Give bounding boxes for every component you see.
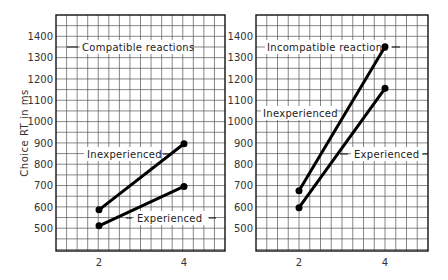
data-point-marker bbox=[181, 183, 188, 190]
y-tick-label: 1300 bbox=[228, 52, 253, 63]
y-tick-label: 1100 bbox=[228, 95, 253, 106]
y-tick-label: 500 bbox=[234, 223, 253, 234]
y-tick-label: 1400 bbox=[28, 31, 53, 42]
y-tick-label: 500 bbox=[34, 223, 53, 234]
y-tick-label: 1200 bbox=[28, 74, 53, 85]
y-tick-label: 600 bbox=[234, 202, 253, 213]
y-tick-label: 900 bbox=[34, 138, 53, 149]
y-tick-label: 800 bbox=[34, 159, 53, 170]
right-inexperienced-label: Inexperienced bbox=[263, 108, 338, 119]
y-tick-label: 1400 bbox=[228, 31, 253, 42]
left-y-tick-labels: 50060070080090010001100120013001400 bbox=[28, 31, 53, 234]
left-inexperienced-label: Inexperienced bbox=[87, 149, 162, 160]
left-x-tick-4: 4 bbox=[181, 257, 187, 268]
right-x-tick-4: 4 bbox=[382, 257, 388, 268]
right-panel-title: Incompatible reactions bbox=[267, 42, 388, 53]
left-panel-title: Compatible reactions bbox=[82, 42, 195, 53]
right-experienced-label: Experienced bbox=[354, 149, 419, 160]
right-x-tick-2: 2 bbox=[296, 257, 302, 268]
y-tick-label: 700 bbox=[234, 180, 253, 191]
data-point-marker bbox=[296, 187, 303, 194]
y-tick-label: 1300 bbox=[28, 52, 53, 63]
data-point-marker bbox=[96, 206, 103, 213]
right-y-tick-labels: 50060070080090010001100120013001400 bbox=[228, 31, 253, 234]
y-tick-label: 1000 bbox=[28, 116, 53, 127]
y-tick-label: 1000 bbox=[228, 116, 253, 127]
y-tick-label: 600 bbox=[34, 202, 53, 213]
y-tick-label: 1200 bbox=[228, 74, 253, 85]
y-tick-label: 700 bbox=[34, 180, 53, 191]
data-point-marker bbox=[382, 85, 389, 92]
y-tick-label: 1100 bbox=[28, 95, 53, 106]
chart-figure: 50060070080090010001100120013001400 5006… bbox=[0, 0, 448, 280]
data-point-marker bbox=[296, 204, 303, 211]
y-axis-label: Choice RT in ms bbox=[19, 89, 30, 176]
data-point-marker bbox=[181, 140, 188, 147]
y-tick-label: 900 bbox=[234, 138, 253, 149]
data-point-marker bbox=[382, 43, 389, 50]
left-x-tick-2: 2 bbox=[96, 257, 102, 268]
left-experienced-label: Experienced bbox=[137, 213, 202, 224]
data-point-marker bbox=[96, 222, 103, 229]
y-tick-label: 800 bbox=[234, 159, 253, 170]
